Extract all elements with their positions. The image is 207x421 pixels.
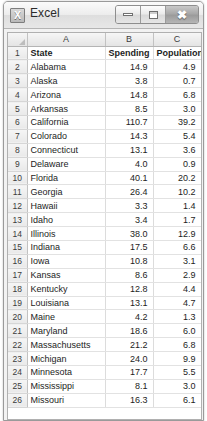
row-header[interactable]: 6 — [8, 115, 27, 129]
table-row[interactable]: 16Iowa10.83.1 — [8, 254, 201, 268]
cell-state[interactable]: Louisiana — [27, 296, 105, 310]
row-header[interactable]: 10 — [8, 171, 27, 185]
cell-population[interactable]: 10.2 — [153, 185, 201, 199]
cell-state[interactable]: Idaho — [27, 213, 105, 227]
table-row[interactable]: 1 State Spending Population — [8, 46, 201, 60]
row-header[interactable]: 9 — [8, 157, 27, 171]
cell-population[interactable]: 6.6 — [153, 240, 201, 254]
spreadsheet-grid[interactable]: A B C 1 State Spending Population 2Alaba… — [7, 32, 202, 420]
cell-state[interactable]: Missouri — [27, 393, 105, 407]
table-row[interactable]: 17Kansas8.62.9 — [8, 268, 201, 282]
cell-population[interactable]: 2.9 — [153, 268, 201, 282]
minimize-button[interactable] — [116, 6, 141, 23]
row-header[interactable]: 14 — [8, 227, 27, 241]
column-header-a[interactable]: A — [27, 33, 105, 46]
row-header[interactable]: 1 — [8, 46, 27, 60]
row-header[interactable]: 18 — [8, 282, 27, 296]
cell-spending[interactable]: 3.4 — [105, 213, 153, 227]
cell-c1[interactable]: Population — [153, 46, 201, 60]
table-row[interactable]: 11Georgia26.410.2 — [8, 185, 201, 199]
row-header[interactable]: 11 — [8, 185, 27, 199]
cell-spending[interactable]: 17.7 — [105, 365, 153, 379]
table-row[interactable]: 15Indiana17.56.6 — [8, 240, 201, 254]
cell-state[interactable]: Mississippi — [27, 379, 105, 393]
row-header[interactable]: 25 — [8, 379, 27, 393]
cell-spending[interactable]: 21.2 — [105, 338, 153, 352]
table-row[interactable]: 10Florida40.120.2 — [8, 171, 201, 185]
cell-spending[interactable]: 38.0 — [105, 227, 153, 241]
row-header[interactable]: 16 — [8, 254, 27, 268]
cell-state[interactable]: Hawaii — [27, 199, 105, 213]
cell-state[interactable]: Massachusetts — [27, 338, 105, 352]
cell-state[interactable]: Minnesota — [27, 365, 105, 379]
row-header[interactable]: 17 — [8, 268, 27, 282]
cell-state[interactable]: Kansas — [27, 268, 105, 282]
cell-state[interactable]: Kentucky — [27, 282, 105, 296]
cell-b1[interactable]: Spending — [105, 46, 153, 60]
cell-spending[interactable]: 12.8 — [105, 282, 153, 296]
row-header[interactable]: 5 — [8, 102, 27, 116]
table-row[interactable]: 21Maryland18.66.0 — [8, 324, 201, 338]
cell-spending[interactable]: 24.0 — [105, 352, 153, 366]
cell-spending[interactable]: 14.9 — [105, 60, 153, 74]
row-header[interactable]: 19 — [8, 296, 27, 310]
row-header[interactable]: 23 — [8, 352, 27, 366]
cell-spending[interactable]: 110.7 — [105, 115, 153, 129]
cell-state[interactable]: Alabama — [27, 60, 105, 74]
cell-population[interactable]: 6.8 — [153, 338, 201, 352]
table-row[interactable]: 25Mississippi8.13.0 — [8, 379, 201, 393]
cell-spending[interactable]: 8.5 — [105, 102, 153, 116]
cell-state[interactable]: Iowa — [27, 254, 105, 268]
row-header[interactable]: 12 — [8, 199, 27, 213]
maximize-button[interactable] — [141, 6, 166, 23]
cell-spending[interactable]: 3.3 — [105, 199, 153, 213]
table-row[interactable]: 2Alabama14.94.9 — [8, 60, 201, 74]
table-row[interactable]: 12Hawaii3.31.4 — [8, 199, 201, 213]
row-header[interactable]: 8 — [8, 143, 27, 157]
cell-population[interactable]: 5.5 — [153, 365, 201, 379]
row-header[interactable]: 3 — [8, 74, 27, 88]
table-row[interactable]: 24Minnesota17.75.5 — [8, 365, 201, 379]
cell-population[interactable]: 3.6 — [153, 143, 201, 157]
cell-population[interactable]: 3.0 — [153, 379, 201, 393]
table-row[interactable]: 5Arkansas8.53.0 — [8, 102, 201, 116]
cell-spending[interactable]: 14.3 — [105, 129, 153, 143]
cell-spending[interactable]: 8.1 — [105, 379, 153, 393]
cell-state[interactable]: Illinois — [27, 227, 105, 241]
row-header[interactable]: 7 — [8, 129, 27, 143]
close-button[interactable]: ✖ — [166, 6, 198, 23]
column-header-c[interactable]: C — [153, 33, 201, 46]
row-header[interactable]: 21 — [8, 324, 27, 338]
table-row[interactable]: 3Alaska3.80.7 — [8, 74, 201, 88]
cell-spending[interactable]: 4.2 — [105, 310, 153, 324]
table-row[interactable]: 23Michigan24.09.9 — [8, 352, 201, 366]
row-header[interactable]: 15 — [8, 240, 27, 254]
cell-spending[interactable]: 13.1 — [105, 143, 153, 157]
table-row[interactable]: 22Massachusetts21.26.8 — [8, 338, 201, 352]
cell-population[interactable]: 4.9 — [153, 60, 201, 74]
cell-spending[interactable]: 18.6 — [105, 324, 153, 338]
cell-state[interactable]: Delaware — [27, 157, 105, 171]
cell-population[interactable]: 9.9 — [153, 352, 201, 366]
cell-state[interactable]: Georgia — [27, 185, 105, 199]
row-header[interactable]: 2 — [8, 60, 27, 74]
cell-state[interactable]: Arizona — [27, 88, 105, 102]
cell-spending[interactable]: 8.6 — [105, 268, 153, 282]
table-row[interactable]: 4Arizona14.86.8 — [8, 88, 201, 102]
cell-state[interactable]: Arkansas — [27, 102, 105, 116]
table-row[interactable]: 26Missouri16.36.1 — [8, 393, 201, 407]
title-bar[interactable]: X Excel ✖ — [4, 2, 203, 29]
cell-spending[interactable]: 40.1 — [105, 171, 153, 185]
cell-population[interactable]: 6.1 — [153, 393, 201, 407]
cell-population[interactable]: 1.4 — [153, 199, 201, 213]
row-header[interactable]: 20 — [8, 310, 27, 324]
row-header[interactable]: 13 — [8, 213, 27, 227]
cell-population[interactable]: 0.7 — [153, 74, 201, 88]
cell-state[interactable]: Michigan — [27, 352, 105, 366]
table-row[interactable]: 8Connecticut13.13.6 — [8, 143, 201, 157]
cell-state[interactable]: Connecticut — [27, 143, 105, 157]
cell-spending[interactable]: 13.1 — [105, 296, 153, 310]
row-header[interactable]: 26 — [8, 393, 27, 407]
cell-population[interactable]: 1.3 — [153, 310, 201, 324]
cell-population[interactable]: 4.4 — [153, 282, 201, 296]
